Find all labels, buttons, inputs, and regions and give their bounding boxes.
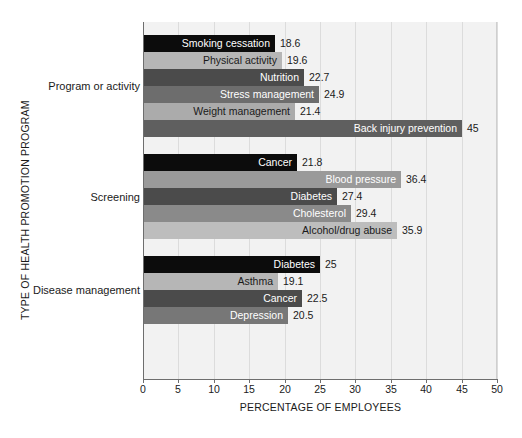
bar[interactable]: Alcohol/drug abuse — [143, 222, 397, 239]
bar[interactable]: Physical activity — [143, 52, 282, 69]
x-axis-tick-label: 30 — [340, 383, 370, 395]
x-axis-tick-label: 20 — [270, 383, 300, 395]
bar-label: Smoking cessation — [182, 38, 270, 49]
bar-value-label: 45 — [463, 120, 479, 137]
x-axis-tick-label: 35 — [376, 383, 406, 395]
bar-label: Back injury prevention — [354, 123, 457, 134]
bar-value-label: 21.8 — [298, 154, 322, 171]
plot-area: Smoking cessation18.6Physical activity19… — [143, 22, 497, 379]
x-axis-tick-label: 45 — [447, 383, 477, 395]
bar[interactable]: Diabetes — [143, 256, 320, 273]
bar-label: Diabetes — [291, 191, 332, 202]
bar[interactable]: Cancer — [143, 154, 297, 171]
bar-chart: TYPE OF HEALTH PROMOTION PROGRAM Program… — [0, 0, 522, 438]
bar-value-label: 35.9 — [398, 222, 422, 239]
bar[interactable]: Diabetes — [143, 188, 337, 205]
y-axis-line — [143, 22, 144, 379]
bar-label: Cancer — [258, 157, 292, 168]
bar[interactable]: Nutrition — [143, 69, 304, 86]
bar[interactable]: Cancer — [143, 290, 302, 307]
bar-value-label: 36.4 — [402, 171, 426, 188]
x-axis-tick-label: 40 — [411, 383, 441, 395]
bar-label: Depression — [230, 310, 283, 321]
bar-value-label: 19.1 — [279, 273, 303, 290]
bar-value-label: 25 — [321, 256, 337, 273]
bar[interactable]: Depression — [143, 307, 288, 324]
bar-label: Blood pressure — [325, 174, 396, 185]
gridline — [462, 22, 463, 379]
x-axis-tick-label: 10 — [199, 383, 229, 395]
bar[interactable]: Blood pressure — [143, 171, 401, 188]
bar-value-label: 27.4 — [338, 188, 362, 205]
gridline — [426, 22, 427, 379]
y-axis-category-label: Screening — [0, 191, 140, 203]
bar-value-label: 20.5 — [289, 307, 313, 324]
bar-value-label: 29.4 — [352, 205, 376, 222]
y-axis-category-labels: Program or activityScreeningDisease mana… — [0, 0, 140, 438]
bar-label: Asthma — [237, 276, 273, 287]
y-axis-category-label: Disease management — [0, 284, 140, 296]
x-axis-tick-label: 50 — [482, 383, 512, 395]
bar[interactable]: Back injury prevention — [143, 120, 462, 137]
bar[interactable]: Stress management — [143, 86, 319, 103]
bar-value-label: 19.6 — [283, 52, 307, 69]
bar-label: Physical activity — [203, 55, 277, 66]
y-axis-category-label: Program or activity — [0, 80, 140, 92]
bar-label: Stress management — [220, 89, 314, 100]
bar[interactable]: Cholesterol — [143, 205, 351, 222]
bar-value-label: 22.7 — [305, 69, 329, 86]
x-axis-tick-label: 25 — [305, 383, 335, 395]
bar-value-label: 22.5 — [303, 290, 327, 307]
bar-label: Cancer — [263, 293, 297, 304]
bar-value-label: 24.9 — [320, 86, 344, 103]
bar-label: Cholesterol — [293, 208, 346, 219]
x-axis-tick-label: 5 — [163, 383, 193, 395]
x-axis-title: PERCENTAGE OF EMPLOYEES — [143, 401, 498, 413]
bar-label: Alcohol/drug abuse — [302, 225, 392, 236]
bar-label: Diabetes — [274, 259, 315, 270]
bar-label: Weight management — [193, 106, 290, 117]
bar-label: Nutrition — [260, 72, 299, 83]
bar[interactable]: Weight management — [143, 103, 295, 120]
bar-value-label: 18.6 — [276, 35, 300, 52]
bar[interactable]: Smoking cessation — [143, 35, 275, 52]
bar[interactable]: Asthma — [143, 273, 278, 290]
x-axis-tick-label: 0 — [128, 383, 158, 395]
gridline — [497, 22, 498, 379]
bar-value-label: 21.4 — [296, 103, 320, 120]
x-axis-tick-label: 15 — [234, 383, 264, 395]
gridline — [391, 22, 392, 379]
